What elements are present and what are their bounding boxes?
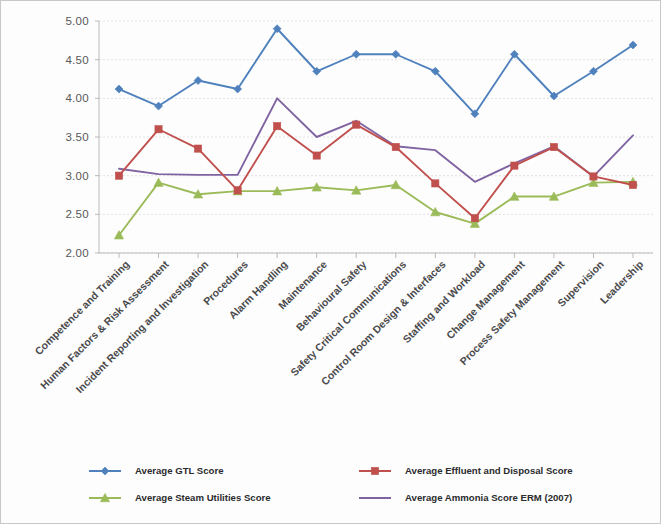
- data-point-marker: [550, 143, 557, 150]
- line-chart: 5.004.504.003.503.002.502.00 Competence …: [1, 1, 661, 524]
- y-tick-label: 2.00: [65, 247, 89, 259]
- data-point-marker: [511, 162, 518, 169]
- data-point-marker: [590, 173, 597, 180]
- y-tick-label: 4.50: [65, 54, 89, 66]
- series-layer: [114, 25, 637, 239]
- y-tick-label: 4.00: [65, 92, 89, 104]
- y-tick-label: 3.00: [65, 170, 89, 182]
- x-axis-labels: Competence and TrainingHuman Factors & R…: [32, 258, 645, 396]
- data-point-marker: [629, 181, 636, 188]
- legend-item[interactable]: Average Ammonia Score ERM (2007): [359, 492, 572, 503]
- chart-figure: 5.004.504.003.503.002.502.00 Competence …: [0, 0, 661, 524]
- data-point-marker: [432, 180, 439, 187]
- data-point-marker: [471, 215, 478, 222]
- data-point-marker: [313, 152, 320, 159]
- data-point-marker: [274, 123, 281, 130]
- data-point-marker: [154, 178, 163, 186]
- y-tick-label: 3.50: [65, 131, 89, 143]
- series-line-2: [119, 182, 633, 235]
- data-point-marker: [115, 172, 122, 179]
- data-point-marker: [115, 85, 123, 93]
- series-line-0: [119, 29, 633, 114]
- legend-label: Average GTL Score: [135, 465, 224, 476]
- data-point-marker: [392, 143, 399, 150]
- data-point-marker: [353, 121, 360, 128]
- legend-item[interactable]: Average Effluent and Disposal Score: [359, 465, 573, 476]
- data-point-marker: [194, 145, 201, 152]
- legend-item[interactable]: Average GTL Score: [89, 465, 224, 476]
- data-point-marker: [352, 50, 360, 58]
- legend-swatch-marker: [101, 467, 109, 475]
- series-line-1: [119, 125, 633, 219]
- legend-swatch-marker: [371, 467, 378, 474]
- x-tick-label: Behavioural Safety: [293, 258, 368, 333]
- data-point-marker: [234, 187, 241, 194]
- y-axis-labels: 5.004.504.003.503.002.502.00: [65, 15, 89, 259]
- legend-label: Average Steam Utilities Score: [135, 492, 271, 503]
- y-tick-label: 2.50: [65, 208, 89, 220]
- y-tick-label: 5.00: [65, 15, 89, 27]
- series-line-3: [119, 98, 633, 182]
- legend-item[interactable]: Average Steam Utilities Score: [89, 492, 271, 503]
- data-point-marker: [155, 126, 162, 133]
- legend-label: Average Ammonia Score ERM (2007): [405, 492, 572, 503]
- legend-layer: Average GTL ScoreAverage Effluent and Di…: [89, 465, 573, 503]
- x-tick-label: Change Management: [444, 258, 528, 342]
- legend-label: Average Effluent and Disposal Score: [405, 465, 573, 476]
- data-point-marker: [392, 50, 400, 58]
